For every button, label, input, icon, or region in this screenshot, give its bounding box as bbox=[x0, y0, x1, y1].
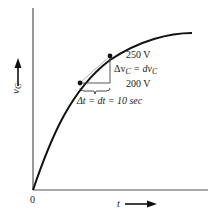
upper-point bbox=[108, 54, 113, 59]
delta-v-equals: = dv bbox=[131, 63, 152, 74]
charging-curve bbox=[33, 33, 192, 190]
delta-t-label: Δt = dt = 10 sec bbox=[77, 96, 142, 106]
y-axis-label-sub: C bbox=[14, 84, 23, 89]
lower-point-label: 200 V bbox=[126, 79, 151, 89]
delta-v-text: Δv bbox=[114, 63, 125, 74]
tangent-line bbox=[80, 56, 110, 83]
y-axis-label-text: v bbox=[9, 89, 21, 94]
delta-v-label: ΔvC = dvC bbox=[114, 64, 157, 76]
delta-t-brace bbox=[80, 88, 110, 94]
diagram-canvas bbox=[0, 0, 220, 212]
y-axis-label: vC bbox=[10, 84, 23, 94]
y-arrowhead-icon bbox=[15, 58, 22, 68]
delta-v-equals-sub: C bbox=[152, 67, 157, 76]
origin-label: 0 bbox=[30, 195, 35, 205]
upper-point-label: 250 V bbox=[126, 50, 151, 60]
x-axis-label: t bbox=[117, 199, 120, 209]
lower-point bbox=[78, 81, 83, 86]
x-arrowhead-icon bbox=[147, 201, 157, 208]
